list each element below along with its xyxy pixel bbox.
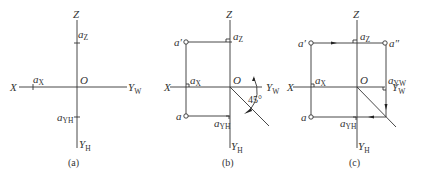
panel-a: Z X O YW YH aX aZ aYH (a) (9, 8, 142, 169)
45-degree-line (357, 87, 396, 127)
caption-a: (a) (68, 157, 79, 169)
a-prime-label: a′ (298, 37, 307, 49)
origin-label: O (233, 74, 241, 86)
point-a-double-prime (383, 41, 387, 45)
point-a (309, 115, 313, 119)
yh-label: YH (358, 140, 370, 155)
x-label: X (163, 81, 172, 93)
az-label: aZ (78, 28, 89, 42)
ayh-label: aYH (214, 117, 231, 131)
panel-b: Z X O YW YH aX aZ aYH a′ a 45° (b) (163, 8, 280, 169)
a-label: a (301, 111, 307, 123)
z-label: Z (73, 8, 80, 20)
yh-label: YH (79, 138, 91, 153)
yw-label: YW (128, 81, 142, 96)
z-label: Z (226, 8, 233, 20)
origin-label: O (80, 74, 88, 86)
az-label: aZ (233, 30, 244, 44)
x-label: X (286, 81, 295, 93)
ayh-label: aYH (340, 117, 357, 131)
ayh-right-angle (226, 116, 229, 119)
ayh-right-angle (353, 117, 356, 120)
point-a-prime (309, 41, 313, 45)
45-degree-line (230, 87, 269, 126)
yh-label: YH (231, 140, 243, 155)
a-double-prime-label: a″ (389, 37, 400, 49)
x-label: X (9, 81, 18, 93)
ax-label: aX (190, 74, 202, 88)
arrow-bottom (368, 116, 374, 119)
angle-label: 45° (248, 94, 262, 105)
caption-c: (c) (349, 157, 360, 169)
z-label: Z (353, 8, 360, 20)
ayw-label: aYW (388, 74, 407, 88)
panel-c: Z X O YW YH aX aZ aYH aYW a′ a″ a (c) (286, 8, 407, 169)
az-label: aZ (360, 30, 371, 44)
a-label: a (176, 110, 182, 122)
origin-label: O (360, 74, 368, 86)
ax-label: aX (33, 73, 45, 87)
arc-arrowhead-bottom (244, 108, 252, 114)
point-a (184, 114, 188, 118)
yw-label: YW (266, 81, 280, 96)
arrow-right-down (385, 104, 388, 110)
point-a-prime (184, 40, 188, 44)
a-prime-label: a′ (174, 36, 183, 48)
arrow-top (331, 42, 337, 45)
ax-label: aX (315, 74, 327, 88)
caption-b: (b) (222, 157, 234, 169)
projection-diagram: Z X O YW YH aX aZ aYH (a) Z X O YW YH (0, 0, 429, 179)
ayh-label: aYH (57, 111, 74, 125)
